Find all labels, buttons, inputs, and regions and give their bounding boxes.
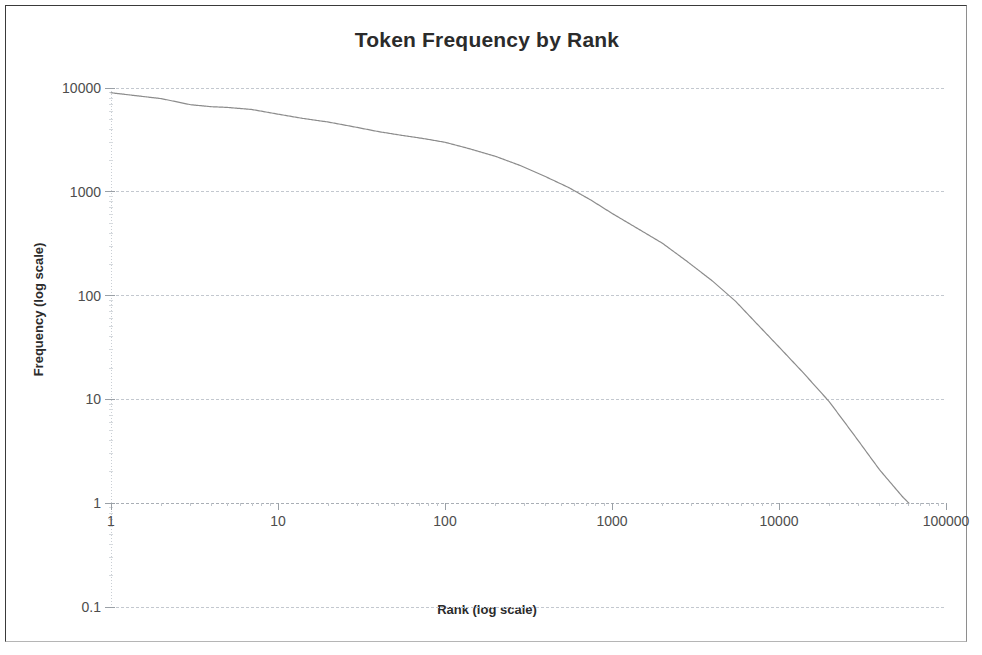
y-tick-label: 100 (29, 288, 101, 304)
y-tick-label: 10000 (29, 80, 101, 96)
data-series (111, 93, 909, 503)
chart-frame: Token Frequency by Rank Frequency (log s… (5, 5, 967, 642)
y-tick-label: 0.1 (29, 599, 101, 615)
x-tick-label: 10 (228, 513, 328, 529)
y-tick-label: 1 (29, 495, 101, 511)
x-tick-label: 1 (61, 513, 161, 529)
plot-area (6, 6, 968, 643)
x-tick-label: 1000 (562, 513, 662, 529)
x-tick-label: 100 (395, 513, 495, 529)
x-tick-label: 10000 (729, 513, 829, 529)
x-tick-label: 100000 (896, 513, 982, 529)
series-line-0 (111, 93, 909, 503)
y-tick-label: 10 (29, 391, 101, 407)
y-tick-label: 1000 (29, 184, 101, 200)
